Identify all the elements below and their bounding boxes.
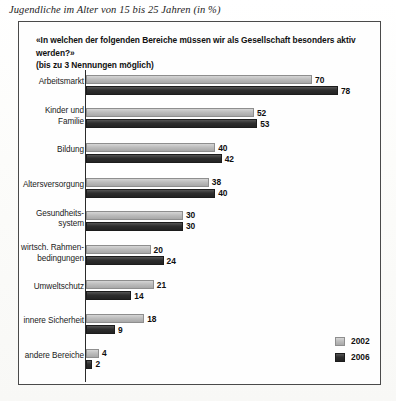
bar-2006: 24 — [86, 256, 164, 265]
bar-2006: 30 — [86, 222, 183, 231]
category-label-line-1: Gesundheits- — [36, 209, 84, 218]
bar-2006: 9 — [86, 325, 115, 334]
bar-2002: 4 — [86, 349, 99, 358]
category-label: Arbeitsmarkt — [0, 77, 84, 88]
bar-2002-value-label: 30 — [186, 210, 195, 220]
category-label-line-1: Altersversorgung — [23, 180, 84, 189]
category-label-line-1: wirtsch. Rahmen- — [21, 243, 84, 252]
bar-2002: 18 — [86, 314, 144, 323]
bar-2006: 2 — [86, 360, 92, 369]
category-label: Gesundheits-system — [0, 209, 84, 230]
bar-2006: 42 — [86, 154, 222, 163]
category-label-line-1: andere Bereiche — [25, 351, 84, 360]
bar-2002: 52 — [86, 108, 254, 117]
category-label-line-1: Umweltschutz — [34, 282, 84, 291]
bar-pair: 2114 — [86, 280, 154, 300]
bar-2002-value-label: 38 — [212, 177, 221, 187]
bar-2002: 40 — [86, 143, 215, 152]
chart-frame: «In welchen der folgenden Bereiche müsse… — [18, 21, 381, 385]
legend-item-2002: 2002 — [335, 336, 370, 346]
chart-legend: 2002 2006 — [335, 336, 370, 368]
legend-label-2006: 2006 — [351, 352, 370, 362]
category-label: Altersversorgung — [0, 180, 84, 191]
bar-2002: 38 — [86, 178, 209, 187]
bar-2006-value-label: 2 — [95, 359, 100, 369]
bar-2006-value-label: 30 — [186, 221, 195, 231]
bar-2006-value-label: 40 — [218, 188, 227, 198]
category-label-line-2: Familie — [58, 117, 84, 126]
legend-item-2006: 2006 — [335, 352, 370, 362]
bar-pair: 7078 — [86, 75, 338, 95]
bar-2002: 70 — [86, 75, 312, 84]
bar-2002-value-label: 40 — [218, 143, 227, 153]
bar-2006-value-label: 42 — [225, 154, 234, 164]
category-label: andere Bereiche — [0, 351, 84, 362]
legend-label-2002: 2002 — [351, 336, 370, 346]
legend-swatch-2006-icon — [335, 353, 345, 362]
bar-2002-value-label: 70 — [315, 75, 324, 85]
category-label-line-1: Arbeitsmarkt — [39, 77, 84, 86]
bar-2006-value-label: 9 — [118, 325, 123, 335]
bar-2002-value-label: 18 — [147, 314, 156, 324]
question-line-1: «In welchen der folgenden Bereiche müsse… — [36, 35, 356, 58]
category-label-line-1: Bildung — [57, 145, 84, 154]
bar-2006: 78 — [86, 86, 338, 95]
bar-2006-value-label: 53 — [260, 119, 269, 129]
bar-2006: 53 — [86, 119, 257, 128]
bar-2006: 40 — [86, 189, 215, 198]
bar-pair: 42 — [86, 349, 99, 369]
bar-2006-value-label: 14 — [134, 291, 143, 301]
category-label: Kinder undFamilie — [0, 106, 84, 127]
bar-2006-value-label: 24 — [167, 256, 176, 266]
category-label: wirtsch. Rahmen-bedingungen — [0, 243, 84, 264]
bar-2002-value-label: 52 — [257, 108, 266, 118]
bar-pair: 5253 — [86, 108, 257, 128]
bar-pair: 3840 — [86, 178, 215, 198]
category-label: innere Sicherheit — [0, 316, 84, 327]
bar-2006: 14 — [86, 291, 131, 300]
bar-pair: 4042 — [86, 143, 222, 163]
category-label-line-2: system — [58, 219, 84, 228]
bar-pair: 2024 — [86, 245, 164, 265]
bar-2006-value-label: 78 — [341, 86, 350, 96]
bar-chart-plot: Arbeitsmarkt7078Kinder undFamilie5253Bil… — [19, 68, 382, 384]
bar-2002-value-label: 21 — [157, 280, 166, 290]
category-label: Bildung — [0, 145, 84, 156]
legend-swatch-2002-icon — [335, 337, 345, 346]
figure-caption: Jugendliche im Alter von 15 bis 25 Jahre… — [9, 4, 221, 15]
bar-2002: 20 — [86, 245, 151, 254]
bar-pair: 3030 — [86, 211, 183, 231]
category-label-line-2: bedingungen — [37, 254, 84, 263]
bar-2002: 30 — [86, 211, 183, 220]
category-label: Umweltschutz — [0, 282, 84, 293]
category-label-line-1: Kinder und — [45, 106, 84, 115]
category-label-line-1: innere Sicherheit — [23, 316, 84, 325]
bar-pair: 189 — [86, 314, 144, 334]
bar-2002: 21 — [86, 280, 154, 289]
bar-2002-value-label: 20 — [154, 245, 163, 255]
bar-2002-value-label: 4 — [102, 348, 107, 358]
chart-question-title: «In welchen der folgenden Bereiche müsse… — [36, 34, 366, 72]
